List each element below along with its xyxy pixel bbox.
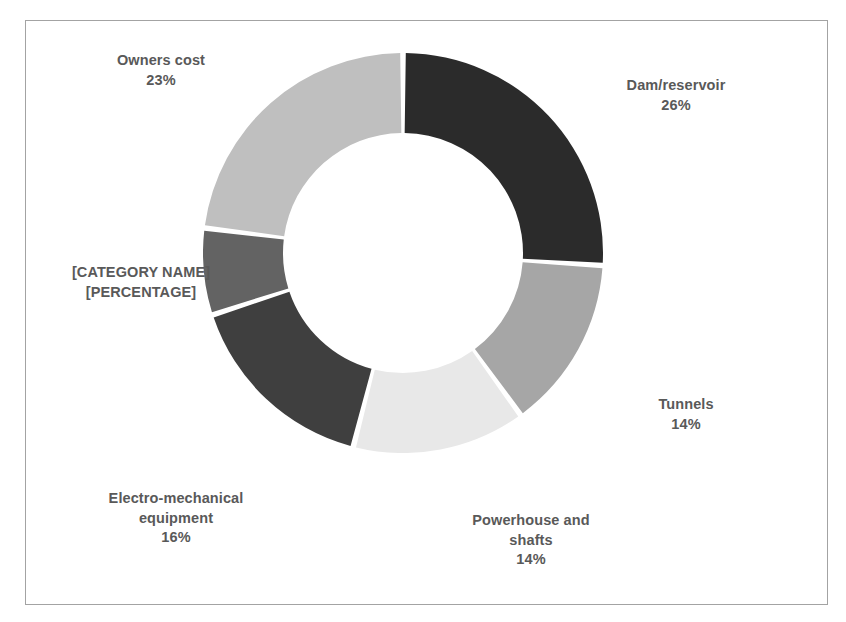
slice-label-tunnels: Tunnels 14% [606,395,766,434]
slice-label-dam-reservoir: Dam/reservoir 26% [566,76,786,115]
slice-label-powerhouse-and-shafts: Powerhouse and shafts 14% [426,511,636,570]
donut-chart[interactable] [203,53,603,453]
donut-svg [203,53,603,453]
donut-slice-group [203,53,603,453]
slice-label-owners-cost: Owners cost 23% [56,51,266,90]
chart-frame: Owners cost 23% Dam/reservoir 26% Tunnel… [25,20,828,605]
slice-label-electro-mechanical-equipment: Electro-mechanical equipment 16% [56,489,296,548]
donut-slice-electro[interactable] [214,292,372,446]
slice-label-category-name-placeholder: [CATEGORY NAME] [PERCENTAGE] [31,263,251,302]
